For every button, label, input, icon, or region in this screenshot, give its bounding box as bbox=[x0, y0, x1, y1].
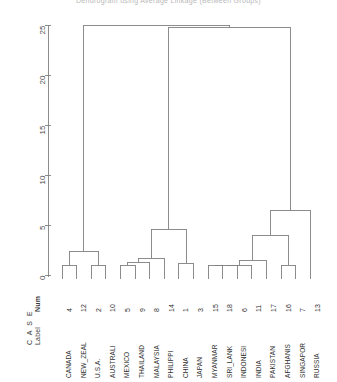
leaf-label-afghanis: AFGHANIS bbox=[284, 344, 291, 378]
header-label: Label bbox=[34, 327, 42, 345]
header-num: Num bbox=[34, 296, 42, 312]
axis-tick-10: 10 bbox=[38, 175, 47, 197]
leaf-number-indonesi: 6 bbox=[241, 308, 249, 312]
leaf-label-china: CHINA bbox=[182, 357, 189, 378]
leaf-label-philippi: PHILIPPI bbox=[167, 350, 174, 378]
leaf-label-myanmar: MYANMAR bbox=[211, 345, 218, 378]
leaf-label-sri-lank: SRI_LANK bbox=[226, 346, 233, 378]
leaf-label-canada: CANADA bbox=[65, 350, 72, 378]
leaf-label-malaysia: MALAYSIA bbox=[153, 345, 160, 378]
leaf-number-myanmar: 15 bbox=[212, 304, 220, 312]
leaf-label-u-s-a: U.S.A. bbox=[94, 359, 101, 378]
axis-tick-0: 0 bbox=[38, 275, 47, 297]
leaf-number-australi: 10 bbox=[109, 304, 117, 312]
leaf-number-sri-lank: 18 bbox=[226, 304, 234, 312]
leaf-label-singapor: SINGAPOR bbox=[299, 343, 306, 378]
leaf-number-singapor: 7 bbox=[299, 308, 307, 312]
axis-tick-25: 25 bbox=[38, 25, 47, 47]
leaf-label-indonesi: INDONESI bbox=[240, 346, 247, 378]
leaf-label-mexico: MEXICO bbox=[123, 352, 130, 378]
axis-tick-15: 15 bbox=[38, 125, 47, 147]
leaf-number-thailand: 9 bbox=[139, 308, 147, 312]
axis-tick-5: 5 bbox=[38, 225, 47, 247]
leaf-number-china: 1 bbox=[182, 308, 190, 312]
leaf-number-malaysia: 8 bbox=[153, 308, 161, 312]
leaf-label-russia: RUSSIA bbox=[313, 353, 320, 378]
leaf-number-india: 11 bbox=[255, 305, 263, 312]
leaf-label-new-zeal: NEW_ZEAL bbox=[80, 342, 87, 378]
leaf-label-australi: AUSTRALI bbox=[109, 345, 116, 378]
leaf-label-japan: JAPAN bbox=[196, 357, 203, 378]
axis-tick-20: 20 bbox=[38, 75, 47, 97]
dendrogram-plot bbox=[0, 0, 337, 382]
leaf-number-afghanis: 16 bbox=[285, 304, 293, 312]
leaf-number-new-zeal: 12 bbox=[80, 304, 88, 312]
leaf-label-thailand: THAILAND bbox=[138, 345, 145, 378]
leaf-label-pakistan: PAKISTAN bbox=[269, 346, 276, 378]
leaf-number-u-s-a: 2 bbox=[95, 308, 103, 312]
leaf-number-japan: 3 bbox=[197, 308, 205, 312]
leaf-number-mexico: 5 bbox=[124, 308, 132, 312]
dendrogram-figure: Dendrogram using Average Linkage (Betwee… bbox=[0, 0, 337, 382]
header-case: C A S E bbox=[26, 310, 34, 345]
leaf-number-russia: 13 bbox=[314, 304, 322, 312]
leaf-number-canada: 4 bbox=[66, 308, 74, 312]
leaf-number-pakistan: 17 bbox=[270, 304, 278, 312]
leaf-label-india: INDIA bbox=[255, 360, 262, 378]
leaf-number-philippi: 14 bbox=[168, 304, 176, 312]
